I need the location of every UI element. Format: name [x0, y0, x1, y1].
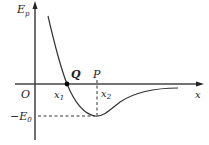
x1-label: x1: [54, 89, 64, 102]
min-energy-label: −E0: [10, 110, 32, 124]
y-axis-arrow-icon: [33, 1, 38, 9]
potential-curve: [48, 16, 178, 116]
point-q: [65, 82, 70, 87]
x-axis-label: x: [195, 89, 201, 100]
point-q-label: Q: [71, 68, 81, 81]
origin-label: O: [21, 88, 30, 101]
point-p-label: P: [92, 68, 101, 81]
potential-energy-diagram: Ep O Q P x1 x2 x −E0: [0, 0, 209, 145]
x2-label: x2: [101, 88, 112, 101]
x-axis-arrow-icon: [196, 82, 204, 87]
y-axis-label: Ep: [16, 3, 30, 18]
